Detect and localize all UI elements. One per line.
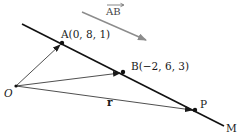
direction-vector-label: AB (106, 7, 121, 17)
line-m-label: M (226, 123, 237, 134)
vector-ob (16, 73, 120, 86)
origin-label: O (4, 88, 13, 99)
point-b-label: B(−2, 6, 3) (131, 61, 189, 72)
point-b (121, 70, 125, 74)
vector-oa (16, 45, 60, 86)
point-a-label: A(0, 8, 1) (61, 29, 110, 40)
point-p (193, 108, 197, 112)
vector-r (16, 86, 192, 110)
vector-r-label: r (107, 97, 113, 108)
vector-line-diagram: AB A(0, 8, 1) B(−2, 6, 3) P M O r (0, 0, 240, 137)
point-a (60, 41, 64, 45)
point-o (14, 84, 17, 87)
point-p-label: P (200, 99, 207, 110)
diagram-graphics (0, 0, 240, 137)
